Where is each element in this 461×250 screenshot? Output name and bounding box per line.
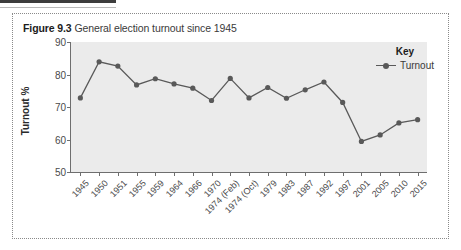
y-axis-tick-label: 50 bbox=[55, 167, 66, 178]
plot-area: 5060708090194519501951195519591964196619… bbox=[71, 42, 427, 172]
line-series-svg bbox=[71, 42, 427, 172]
x-axis-tick-label: 1983 bbox=[276, 178, 297, 199]
data-point bbox=[209, 98, 214, 103]
data-point bbox=[378, 132, 383, 137]
x-axis-tick-mark bbox=[305, 172, 306, 176]
x-axis-tick-mark bbox=[286, 172, 287, 176]
y-axis-tick-mark bbox=[67, 42, 71, 43]
y-axis-tick-mark bbox=[67, 172, 71, 173]
x-axis-tick-label: 2010 bbox=[389, 178, 410, 199]
data-point bbox=[153, 76, 158, 81]
x-axis-tick-label: 2015 bbox=[407, 178, 428, 199]
data-point bbox=[134, 82, 139, 87]
x-axis-tick-mark bbox=[230, 172, 231, 176]
data-point bbox=[115, 63, 120, 68]
x-axis-tick-mark bbox=[343, 172, 344, 176]
legend-item-turnout[interactable]: Turnout bbox=[376, 60, 434, 71]
legend-title: Key bbox=[376, 46, 434, 57]
x-axis-tick-mark bbox=[99, 172, 100, 176]
y-axis-tick-label: 60 bbox=[55, 134, 66, 145]
line-with-dot-marker-icon bbox=[376, 61, 396, 70]
data-point bbox=[78, 95, 83, 100]
x-axis-tick-label: 1964 bbox=[164, 178, 185, 199]
x-axis-tick-label: 1987 bbox=[295, 178, 316, 199]
x-axis-tick-mark bbox=[118, 172, 119, 176]
x-axis-tick-mark bbox=[174, 172, 175, 176]
data-point bbox=[171, 81, 176, 86]
x-axis-tick-label: 1979 bbox=[258, 178, 279, 199]
x-axis-tick-mark bbox=[324, 172, 325, 176]
y-axis-tick-label: 90 bbox=[55, 37, 66, 48]
x-axis-tick-label: 1951 bbox=[108, 178, 129, 199]
x-axis-tick-label: 1955 bbox=[126, 178, 147, 199]
x-axis-tick-label: 1945 bbox=[70, 178, 91, 199]
x-axis-tick-label: 1992 bbox=[314, 178, 335, 199]
data-point bbox=[190, 86, 195, 91]
data-point bbox=[97, 59, 102, 64]
data-point bbox=[359, 139, 364, 144]
y-axis-tick-label: 70 bbox=[55, 102, 66, 113]
x-axis-tick-mark bbox=[399, 172, 400, 176]
figure-panel: Figure 9.3 General election turnout sinc… bbox=[12, 13, 449, 239]
x-axis-tick-mark bbox=[249, 172, 250, 176]
x-axis-tick-label: 1966 bbox=[183, 178, 204, 199]
data-point bbox=[246, 95, 251, 100]
y-axis-tick-mark bbox=[67, 140, 71, 141]
x-axis-tick-mark bbox=[380, 172, 381, 176]
data-point bbox=[340, 100, 345, 105]
data-point bbox=[303, 87, 308, 92]
data-point bbox=[228, 76, 233, 81]
x-axis-tick-mark bbox=[418, 172, 419, 176]
x-axis-tick-label: 2005 bbox=[370, 178, 391, 199]
x-axis-tick-mark bbox=[268, 172, 269, 176]
data-point bbox=[321, 79, 326, 84]
figure-caption-text: General election turnout since 1945 bbox=[72, 22, 237, 34]
y-axis-tick-label: 80 bbox=[55, 69, 66, 80]
data-point bbox=[284, 96, 289, 101]
x-axis-tick-mark bbox=[137, 172, 138, 176]
x-axis-tick-mark bbox=[212, 172, 213, 176]
y-axis-tick-mark bbox=[67, 75, 71, 76]
x-axis-tick-mark bbox=[80, 172, 81, 176]
legend: Key Turnout bbox=[376, 46, 434, 71]
x-axis-tick-label: 2001 bbox=[351, 178, 372, 199]
series-line-turnout bbox=[80, 62, 417, 142]
figure-number: Figure 9.3 bbox=[23, 22, 72, 34]
figure-caption: Figure 9.3 General election turnout sinc… bbox=[23, 22, 237, 34]
data-point bbox=[415, 117, 420, 122]
y-axis-tick-mark bbox=[67, 107, 71, 108]
chart-area: Turnout % 506070809019451950195119551959… bbox=[23, 40, 438, 230]
x-axis-tick-label: 1950 bbox=[89, 178, 110, 199]
x-axis-tick-mark bbox=[193, 172, 194, 176]
data-point bbox=[265, 85, 270, 90]
x-axis-tick-mark bbox=[361, 172, 362, 176]
legend-item-label: Turnout bbox=[400, 60, 434, 71]
data-point bbox=[396, 120, 401, 125]
x-axis-tick-label: 1997 bbox=[333, 178, 354, 199]
y-axis-title: Turnout % bbox=[20, 76, 31, 146]
x-axis-tick-label: 1959 bbox=[145, 178, 166, 199]
page-top-rule-underline bbox=[0, 3, 116, 8]
x-axis-tick-mark bbox=[155, 172, 156, 176]
